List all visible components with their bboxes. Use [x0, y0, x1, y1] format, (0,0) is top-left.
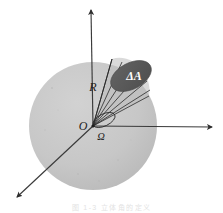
label-radius: R [88, 80, 97, 94]
label-origin: O [79, 119, 88, 133]
figure-caption: 图 1-3 立体角的定义 [0, 202, 223, 212]
origin-dot [91, 124, 94, 127]
label-area-element: ΔA [125, 69, 142, 83]
solid-angle-figure: R O Ω ΔA 图 1-3 立体角的定义 [0, 0, 223, 213]
label-solid-angle: Ω [97, 131, 105, 142]
figure-canvas: R O Ω ΔA [0, 0, 223, 213]
